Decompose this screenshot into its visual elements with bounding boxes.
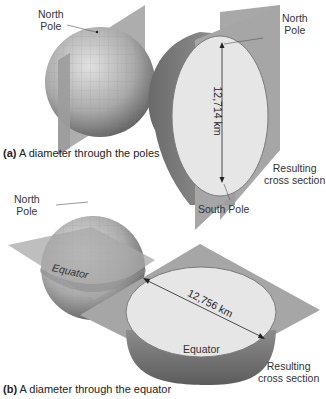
north-pole-label-right: North Pole [282, 12, 308, 36]
north-pole-label-b: North Pole [14, 193, 40, 217]
north-pole-b-line1: North [14, 193, 40, 205]
equator-section-label: Equator [183, 343, 220, 355]
caption-a-letter: (a) [3, 147, 16, 159]
north-pole-right-line2: Pole [282, 24, 308, 36]
north-pole-b-line2: Pole [14, 205, 40, 217]
south-pole-label: South Pole [198, 203, 249, 215]
north-pole-label-left: North Pole [38, 8, 64, 32]
caption-a: (a) A diameter through the poles [3, 147, 160, 159]
north-pole-right-line1: North [282, 12, 308, 24]
resulting-b-line2: cross section [258, 372, 319, 384]
resulting-cross-section-a: Resulting cross section [264, 162, 325, 186]
resulting-a-line2: cross section [264, 174, 325, 186]
caption-b-letter: (b) [3, 383, 17, 395]
resulting-a-line1: Resulting [264, 162, 325, 174]
caption-b: (b) A diameter through the equator [3, 383, 171, 395]
north-pole-left-line1: North [38, 8, 64, 20]
caption-b-text: A diameter through the equator [17, 383, 171, 395]
polar-diameter-label: 12,714 km [212, 86, 224, 135]
earth-diameter-diagram [0, 0, 326, 399]
resulting-cross-section-b: Resulting cross section [258, 360, 319, 384]
caption-a-text: A diameter through the poles [16, 147, 159, 159]
north-pole-left-line2: Pole [38, 20, 64, 32]
resulting-b-line1: Resulting [258, 360, 319, 372]
